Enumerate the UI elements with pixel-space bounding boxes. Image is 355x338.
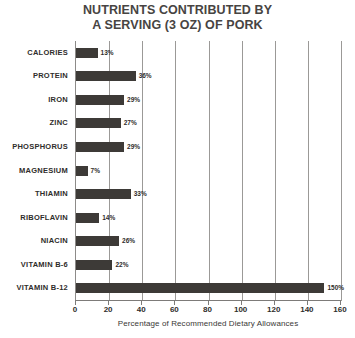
bar-value-label: 150% [327, 282, 344, 294]
bar-value-label: 13% [101, 47, 114, 59]
category-label: PHOSPHORUS [0, 136, 68, 158]
category-label: VITAMIN B-6 [0, 254, 68, 276]
category-label: MAGNESIUM [0, 160, 68, 182]
category-label: VITAMIN B-12 [0, 277, 68, 299]
bar [76, 189, 131, 199]
bar-row: PROTEIN36% [0, 65, 355, 87]
bar-row: NIACIN26% [0, 230, 355, 252]
bar-value-label: 14% [102, 212, 115, 224]
bar [76, 48, 98, 58]
bar [76, 260, 112, 270]
bar-row: ZINC27% [0, 112, 355, 134]
nutrient-bar-chart: NUTRIENTS CONTRIBUTED BY A SERVING (3 OZ… [0, 0, 355, 338]
bar [76, 142, 124, 152]
bar-track: 13% [76, 42, 355, 64]
bar [76, 236, 119, 246]
bar-row: MAGNESIUM7% [0, 160, 355, 182]
bar [76, 95, 124, 105]
category-label: CALORIES [0, 42, 68, 64]
bar-row: VITAMIN B-12150% [0, 277, 355, 299]
bar-value-label: 7% [91, 165, 100, 177]
bar [76, 283, 324, 293]
bar-value-label: 27% [124, 117, 137, 129]
bar-track: 29% [76, 136, 355, 158]
bar-value-label: 29% [127, 94, 140, 106]
bar [76, 118, 121, 128]
bar-track: 14% [76, 207, 355, 229]
bar-row: PHOSPHORUS29% [0, 136, 355, 158]
x-axis-title: Percentage of Recommended Dietary Allowa… [75, 319, 341, 328]
category-label: ZINC [0, 112, 68, 134]
plot-wrapper: CALORIES13%PROTEIN36%IRON29%ZINC27%PHOSP… [0, 0, 355, 338]
bar-track: 27% [76, 112, 355, 134]
bar-track: 26% [76, 230, 355, 252]
bar-value-label: 29% [127, 141, 140, 153]
x-axis-tick-label: 160 [320, 305, 355, 314]
category-label: THIAMIN [0, 183, 68, 205]
bar-track: 150% [76, 277, 355, 299]
bar-value-label: 22% [115, 259, 128, 271]
bar-track: 29% [76, 89, 355, 111]
bar-row: IRON29% [0, 89, 355, 111]
bar-row: CALORIES13% [0, 42, 355, 64]
category-label: RIBOFLAVIN [0, 207, 68, 229]
category-label: IRON [0, 89, 68, 111]
bar-track: 36% [76, 65, 355, 87]
category-label: PROTEIN [0, 65, 68, 87]
bar-row: VITAMIN B-622% [0, 254, 355, 276]
bar-row: THIAMIN33% [0, 183, 355, 205]
bar-track: 7% [76, 160, 355, 182]
bar-row: RIBOFLAVIN14% [0, 207, 355, 229]
bar-value-label: 36% [139, 70, 152, 82]
bar [76, 166, 88, 176]
bar-track: 22% [76, 254, 355, 276]
bar-track: 33% [76, 183, 355, 205]
category-label: NIACIN [0, 230, 68, 252]
bar-value-label: 33% [134, 188, 147, 200]
bar [76, 213, 99, 223]
bar [76, 71, 136, 81]
bar-value-label: 26% [122, 235, 135, 247]
